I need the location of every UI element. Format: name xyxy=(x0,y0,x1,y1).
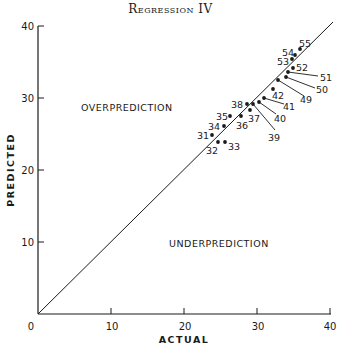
overprediction-label: OVERPREDICTION xyxy=(81,102,173,113)
point-40 xyxy=(257,100,261,104)
point-label-41: 41 xyxy=(283,101,295,112)
scatter-plot: 40 30 20 10 0 10 20 30 40 ACTUAL PREDICT… xyxy=(0,0,341,348)
point-label-35: 35 xyxy=(216,111,228,122)
point-label-39: 39 xyxy=(268,132,280,143)
point-34 xyxy=(222,124,226,128)
y-tick-label-10: 10 xyxy=(21,237,34,248)
point-35 xyxy=(228,114,232,118)
point-label-52: 52 xyxy=(296,62,308,73)
x-tick-label-0: 0 xyxy=(28,321,34,332)
x-axis-title: ACTUAL xyxy=(159,334,210,345)
point-label-50: 50 xyxy=(316,84,328,95)
point-label-51: 51 xyxy=(320,72,332,83)
point-51 xyxy=(286,70,290,74)
point-label-33: 33 xyxy=(228,141,240,152)
point-label-37: 37 xyxy=(248,113,260,124)
x-tick-label-10: 10 xyxy=(106,321,119,332)
point-39 xyxy=(251,102,255,106)
y-tick-label-20: 20 xyxy=(21,165,34,176)
point-31 xyxy=(210,133,214,137)
point-41 xyxy=(262,96,266,100)
point-36 xyxy=(239,114,243,118)
point-label-36: 36 xyxy=(236,120,248,131)
y-tick-label-30: 30 xyxy=(21,93,34,104)
point-33 xyxy=(223,140,227,144)
underprediction-label: UNDERPREDICTION xyxy=(169,238,269,249)
point-label-34: 34 xyxy=(208,121,220,132)
y-ticks xyxy=(38,26,44,242)
y-axis-title: PREDICTED xyxy=(5,133,16,207)
x-tick-label-30: 30 xyxy=(252,321,265,332)
point-37 xyxy=(248,108,252,112)
point-38 xyxy=(245,102,249,106)
point-label-38: 38 xyxy=(231,99,243,110)
point-label-42: 42 xyxy=(272,90,284,101)
point-label-40: 40 xyxy=(274,113,286,124)
point-52 xyxy=(291,66,295,70)
y-tick-label-40: 40 xyxy=(21,21,34,32)
point-label-32: 32 xyxy=(206,145,218,156)
point-50 xyxy=(284,75,288,79)
point-label-55: 55 xyxy=(299,38,311,49)
point-32 xyxy=(216,140,220,144)
x-tick-label-20: 20 xyxy=(179,321,192,332)
x-ticks xyxy=(111,308,330,314)
x-tick-label-40: 40 xyxy=(324,321,337,332)
point-label-49: 49 xyxy=(300,94,312,105)
point-49 xyxy=(276,78,280,82)
point-label-54: 54 xyxy=(282,47,294,58)
